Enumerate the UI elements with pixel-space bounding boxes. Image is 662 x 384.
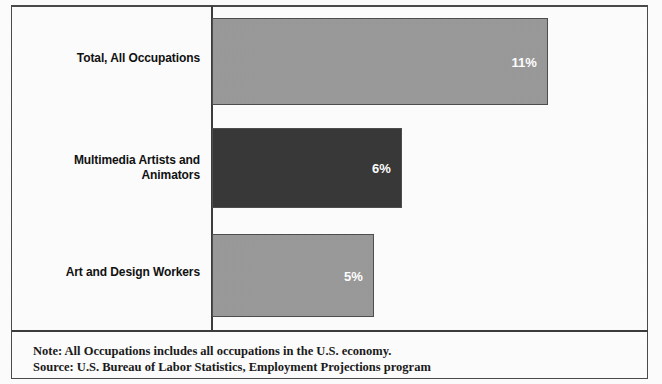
- footnote-note: Note: All Occupations includes all occup…: [33, 343, 633, 359]
- bar-multimedia-artists-and-animators[interactable]: 6%: [212, 128, 402, 208]
- bar-category-label: Art and Design Workers: [12, 265, 200, 280]
- footnote-source: Source: U.S. Bureau of Labor Statistics,…: [33, 359, 633, 375]
- bar-total-all-occupations[interactable]: 11%: [212, 18, 548, 105]
- bar-row: Total, All Occupations 11%: [12, 18, 648, 105]
- bar-chart: Total, All Occupations 11% Multimedia Ar…: [12, 6, 648, 332]
- value-axis-line: [12, 330, 648, 332]
- bar-value-label: 5%: [344, 268, 363, 283]
- bar-row: Art and Design Workers 5%: [12, 234, 648, 317]
- figure-screenshot: Total, All Occupations 11% Multimedia Ar…: [0, 0, 662, 384]
- bar-art-and-design-workers[interactable]: 5%: [212, 234, 374, 317]
- bar-value-label: 6%: [372, 161, 391, 176]
- footnote-block: Note: All Occupations includes all occup…: [33, 343, 633, 375]
- bar-row: Multimedia Artists and Animators 6%: [12, 128, 648, 208]
- bar-category-label: Multimedia Artists and Animators: [12, 153, 200, 183]
- bar-category-label: Total, All Occupations: [12, 51, 200, 66]
- bar-value-label: 11%: [511, 54, 537, 69]
